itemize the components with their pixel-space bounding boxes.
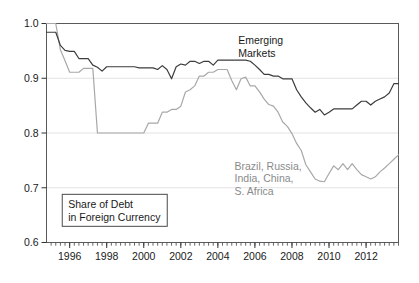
x-tick-label-1998: 1998 — [95, 250, 119, 262]
y-tick-label-0.8: 0.8 — [24, 127, 39, 139]
x-tick-label-2002: 2002 — [169, 250, 193, 262]
y-tick-label-0.6: 0.6 — [24, 236, 39, 248]
caption-line-2: in Foreign Currency — [68, 211, 161, 223]
x-tick-label-2012: 2012 — [354, 250, 378, 262]
y-tick-label-0.9: 0.9 — [24, 72, 39, 84]
x-tick-label-2006: 2006 — [243, 250, 267, 262]
emerging-markets-label-line-1: Emerging — [238, 34, 283, 46]
brics-label-line-1: Brazil, Russia, — [235, 160, 302, 172]
x-tick-label-2008: 2008 — [280, 250, 304, 262]
x-tick-label-1996: 1996 — [58, 250, 82, 262]
y-tick-label-1.0: 1.0 — [24, 17, 39, 29]
x-tick-label-2004: 2004 — [206, 250, 230, 262]
line-chart: 0.60.70.80.91.0 199619982000200220042006… — [0, 0, 419, 283]
brics-label-line-3: S. Africa — [235, 185, 274, 197]
brics-label-line-2: India, China, — [235, 172, 294, 184]
caption-box: Share of Debtin Foreign Currency — [62, 194, 167, 226]
emerging-markets-label-line-2: Markets — [238, 47, 275, 59]
x-tick-label-2000: 2000 — [132, 250, 156, 262]
x-tick-label-2010: 2010 — [317, 250, 341, 262]
chart-figure: 0.60.70.80.91.0 199619982000200220042006… — [0, 0, 419, 283]
x-axis-tick-labels: 199619982000200220042006200820102012 — [58, 250, 378, 262]
chart-background — [0, 0, 419, 283]
y-tick-label-0.7: 0.7 — [24, 182, 39, 194]
caption-line-1: Share of Debt — [68, 198, 133, 210]
